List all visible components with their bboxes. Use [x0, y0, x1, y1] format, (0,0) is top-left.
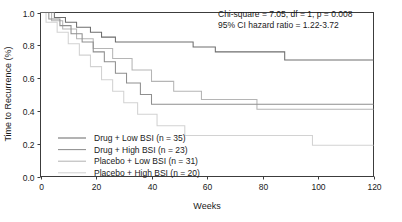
km-curve-group: [41, 13, 374, 146]
y-tick-label: 0.0: [23, 173, 35, 183]
y-tick-label: 0.2: [23, 140, 35, 150]
x-tick-label: 120: [367, 182, 381, 192]
x-tick-label: 40: [148, 182, 158, 192]
y-tick-label: 0.4: [23, 107, 35, 117]
x-axis-tick-labels: 020406080100120: [39, 182, 382, 192]
legend-label: Drug + High BSI (n = 23): [94, 145, 188, 155]
legend: Drug + Low BSI (n = 35)Drug + High BSI (…: [58, 133, 200, 178]
y-axis-title: Time to Recurrence (%): [3, 46, 13, 141]
chart-canvas: 0.00.20.40.60.81.0 020406080100120 Time …: [0, 0, 402, 222]
plot-frame: [41, 13, 374, 177]
stats-chi-square: Chi-square = 7.05, df = 1, p = 0.008: [218, 9, 353, 19]
x-axis-title: Weeks: [193, 201, 221, 211]
kaplan-meier-figure: 0.00.20.40.60.81.0 020406080100120 Time …: [0, 0, 402, 222]
x-tick-label: 0: [39, 182, 44, 192]
y-tick-label: 0.8: [23, 41, 35, 51]
x-tick-label: 80: [259, 182, 269, 192]
y-tick-label: 1.0: [23, 9, 35, 19]
legend-label: Placebo + High BSI (n = 20): [94, 168, 200, 178]
stats-hazard-ratio: 95% CI hazard ratio = 1.22-3.72: [218, 20, 339, 30]
y-tick-label: 0.6: [23, 74, 35, 84]
legend-label: Drug + Low BSI (n = 35): [94, 133, 186, 143]
x-tick-label: 20: [92, 182, 102, 192]
x-tick-label: 60: [203, 182, 213, 192]
legend-label: Placebo + Low BSI (n = 31): [94, 156, 198, 166]
x-tick-label: 100: [311, 182, 325, 192]
y-axis-tick-labels: 0.00.20.40.60.81.0: [23, 9, 35, 183]
